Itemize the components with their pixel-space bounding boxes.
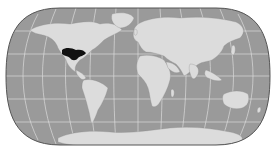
world-map: [0, 0, 276, 153]
madagascar: [171, 89, 174, 97]
british-isles: [134, 29, 137, 35]
